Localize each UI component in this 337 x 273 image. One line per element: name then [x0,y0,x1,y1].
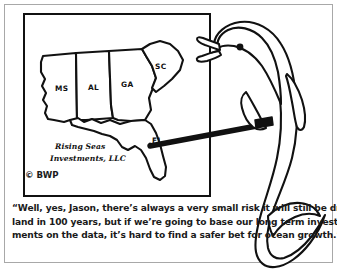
state-label-sc: SC [155,62,167,71]
state-label-fl: FL [152,136,163,145]
cartoon-panel: MS AL GA SC FL Rising Seas Investments, … [0,0,337,273]
state-label-ms: MS [55,84,68,93]
firm-name-line-2: Investments, LLC [50,154,126,163]
caption-line-2: land in 100 years, but if we’re going to… [12,216,270,230]
dolphin-eye [237,44,244,51]
state-label-al: AL [88,83,99,92]
firm-name-line-1: Rising Seas [55,142,105,151]
state-label-ga: GA [121,80,134,89]
cartoon-caption: “Well, yes, Jason, there’s always a very… [12,202,270,243]
caption-line-1: “Well, yes, Jason, there’s always a very… [12,202,270,216]
caption-line-3: ments on the data, it’s hard to find a s… [12,229,270,243]
copyright-notice: © BWP [25,170,58,180]
